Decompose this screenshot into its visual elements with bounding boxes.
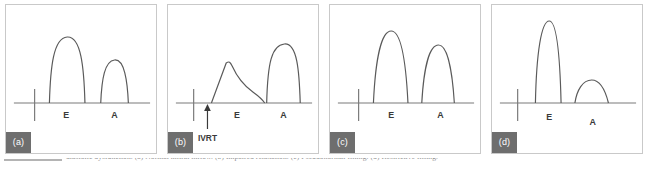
- a-label-a: A: [111, 110, 118, 120]
- ivrt-label-b: IVRT: [198, 133, 218, 143]
- panel-d-trace: E A: [492, 5, 642, 153]
- doppler-waveform-figure: E A (a) IVRT E A (b): [0, 0, 648, 172]
- e-label-c: E: [388, 110, 394, 120]
- a-wave-d: [575, 80, 609, 103]
- panel-c-trace: E A: [330, 5, 480, 153]
- panel-a: E A (a): [0, 0, 162, 158]
- e-label-a: E: [63, 110, 69, 120]
- ivrt-arrow-head: [204, 104, 211, 111]
- panel-c: E A (c): [324, 0, 486, 158]
- panel-a-frame: E A (a): [5, 4, 157, 154]
- a-label-d: A: [589, 117, 596, 127]
- a-wave-b: [267, 44, 301, 103]
- panel-row: E A (a) IVRT E A (b): [0, 0, 648, 158]
- caption-strip: diastolic dysfunction. (a) Normal mitral…: [0, 158, 648, 172]
- e-wave-a: [49, 37, 85, 103]
- e-label-b: E: [234, 110, 240, 120]
- panel-d: E A (d): [486, 0, 648, 158]
- panel-label-d: (d): [492, 132, 517, 153]
- e-wave-c: [373, 31, 408, 103]
- panel-label-a: (a): [6, 132, 31, 153]
- panel-a-trace: E A: [6, 5, 156, 153]
- a-label-b: A: [280, 110, 287, 120]
- e-label-d: E: [546, 112, 552, 122]
- panel-label-b: (b): [168, 132, 193, 153]
- a-wave-c: [422, 45, 455, 103]
- a-wave-a: [101, 60, 129, 103]
- panel-b: IVRT E A (b): [162, 0, 324, 158]
- panel-label-c: (c): [330, 132, 355, 153]
- caption-text: diastolic dysfunction. (a) Normal mitral…: [0, 158, 648, 162]
- panel-b-frame: IVRT E A (b): [167, 4, 319, 154]
- e-wave-b: [211, 62, 264, 103]
- e-wave-d: [535, 21, 561, 103]
- a-label-c: A: [437, 110, 444, 120]
- panel-d-frame: E A (d): [491, 4, 643, 154]
- panel-b-trace: IVRT E A: [168, 5, 318, 153]
- panel-c-frame: E A (c): [329, 4, 481, 154]
- caption-clip: diastolic dysfunction. (a) Normal mitral…: [0, 158, 648, 165]
